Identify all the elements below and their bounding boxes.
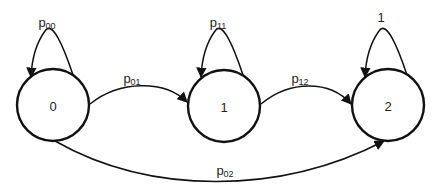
state-diagram: p00 p01 p11 p12 p02 1 0 1 2 (0, 0, 440, 191)
state-label-0: 0 (49, 99, 56, 114)
state-1: 1 (188, 70, 260, 142)
edge-0-1 (90, 86, 187, 104)
edge-label-1-1: p11 (210, 15, 227, 31)
edge-label-1-2: p12 (291, 71, 308, 87)
state-0: 0 (17, 69, 89, 141)
edge-1-2 (261, 86, 351, 104)
edge-label-0-0: p00 (38, 15, 55, 31)
edge-label-0-2: p02 (216, 163, 233, 179)
state-2: 2 (352, 69, 424, 141)
state-label-2: 2 (384, 99, 391, 114)
state-label-1: 1 (220, 100, 227, 115)
edge-label-2-2: 1 (377, 10, 384, 25)
edge-label-0-1: p01 (123, 71, 140, 87)
